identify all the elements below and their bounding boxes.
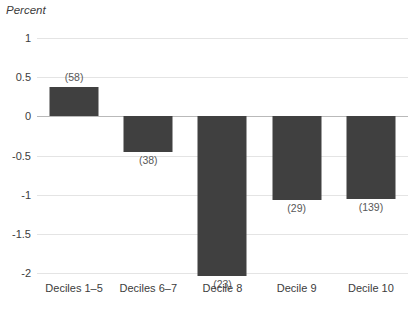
y-axis-tick-label: -2 — [21, 267, 31, 279]
y-axis-title: Percent — [6, 4, 46, 16]
x-axis-tick-label: Decile 9 — [277, 282, 317, 294]
bar[interactable] — [198, 116, 247, 276]
plot-area: 10.50-0.5-1-1.5-2 (58)Deciles 1–5(38)Dec… — [37, 38, 408, 273]
bar-chart: Percent 10.50-0.5-1-1.5-2 (58)Deciles 1–… — [0, 0, 414, 310]
bar-value-label: (139) — [359, 201, 384, 213]
x-axis-tick-label: Deciles 6–7 — [120, 282, 177, 294]
y-axis-tick-label: -0.5 — [12, 150, 31, 162]
bar-category: (38)Deciles 6–7 — [111, 38, 185, 273]
bar[interactable] — [50, 87, 99, 116]
y-axis-tick-label: -1.5 — [12, 228, 31, 240]
y-axis-tick-label: 0 — [25, 110, 31, 122]
bar-category: (23)Decile 8 — [185, 38, 259, 273]
bar[interactable] — [272, 116, 321, 200]
bar-value-label: (38) — [139, 154, 158, 166]
bar[interactable] — [346, 116, 395, 199]
bar-category: (29)Decile 9 — [260, 38, 334, 273]
y-axis-tick-label: 1 — [25, 32, 31, 44]
x-axis-tick-label: Decile 10 — [348, 282, 394, 294]
bar[interactable] — [124, 116, 173, 152]
bar-value-label: (29) — [287, 202, 306, 214]
y-axis-tick-label: 0.5 — [16, 71, 31, 83]
x-axis-tick-label: Decile 8 — [203, 282, 243, 294]
bar-category: (139)Decile 10 — [334, 38, 408, 273]
y-axis-tick-label: -1 — [21, 189, 31, 201]
bar-category: (58)Deciles 1–5 — [37, 38, 111, 273]
bar-value-label: (58) — [65, 71, 84, 83]
bar-series: (58)Deciles 1–5(38)Deciles 6–7(23)Decile… — [37, 38, 408, 273]
x-axis-tick-label: Deciles 1–5 — [45, 282, 102, 294]
